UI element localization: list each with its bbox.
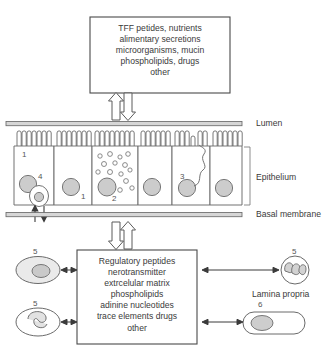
basal-membrane-band bbox=[6, 213, 242, 217]
lumen-exchange-arrow-up bbox=[109, 93, 124, 121]
lamina-propria-mediators-box-text: Regulatory peptides nerotransmitter extr… bbox=[77, 256, 197, 334]
nucleus-enterocyte-6 bbox=[215, 179, 232, 196]
lumen-boundary-band bbox=[6, 122, 242, 126]
microvilli-brush-border bbox=[17, 131, 242, 146]
spindle-cell-right bbox=[243, 312, 305, 334]
connector-arrow-top-right bbox=[202, 267, 279, 272]
bottom-box-line-4: phospholipids bbox=[77, 289, 197, 300]
bottom-box-line-3: extrcelular matrix bbox=[77, 278, 197, 289]
label-basal-membrane: Basal membrane bbox=[256, 209, 321, 219]
cell-number-enterocyte-second: 1 bbox=[81, 192, 85, 201]
connector-arrow-bottom-left bbox=[61, 319, 77, 324]
lumen-exchange-arrow-down bbox=[121, 93, 136, 121]
cell-number-tuft-cell: 3 bbox=[180, 172, 184, 181]
basolateral-exchange-arrow-up bbox=[121, 222, 136, 250]
cell-number-enterocyte-left: 1 bbox=[22, 150, 26, 159]
cell-number-immune-cell-top-left: 5 bbox=[33, 247, 37, 256]
bottom-box-line-5: adinine nucleotides bbox=[77, 300, 197, 311]
connector-arrow-top-left bbox=[61, 267, 77, 272]
cell-number-basal-cell: 4 bbox=[38, 172, 42, 181]
basolateral-exchange-arrow-down bbox=[109, 222, 124, 250]
bottom-box-line-7: other bbox=[77, 323, 197, 334]
top-box-line-1: TFF petides, nutrients bbox=[90, 23, 230, 34]
top-box-line-5: other bbox=[90, 67, 230, 78]
cell-number-spindle-cell-right: 6 bbox=[258, 300, 262, 309]
granulocyte-right bbox=[281, 256, 309, 284]
diagram-canvas: TFF petides, nutrients alimentary secret… bbox=[0, 0, 332, 354]
cell-number-immune-cell-bottom-left: 5 bbox=[33, 299, 37, 308]
top-box-line-4: phospholipids, drugs bbox=[90, 56, 230, 67]
label-epithelium: Epithelium bbox=[256, 172, 296, 182]
top-box-line-3: microorganisms, mucin bbox=[90, 45, 230, 56]
nucleus-enterocyte-2 bbox=[62, 178, 79, 195]
immune-cell-bottom-left bbox=[16, 308, 60, 336]
cell-number-goblet-cell: 2 bbox=[112, 194, 116, 203]
bottom-box-line-2: nerotransmitter bbox=[77, 267, 197, 278]
cell-number-granulocyte-right: 5 bbox=[292, 247, 296, 256]
top-box-line-2: alimentary secretions bbox=[90, 34, 230, 45]
immune-cell-top-left bbox=[16, 257, 60, 284]
label-lamina-propria: Lamina propria bbox=[252, 289, 309, 299]
basal-cell-4 bbox=[30, 186, 49, 207]
luminal-contents-box-text: TFF petides, nutrients alimentary secret… bbox=[90, 23, 230, 78]
label-leader-lines bbox=[244, 147, 250, 205]
nucleus-tuft-cell bbox=[178, 179, 195, 196]
bottom-box-line-1: Regulatory peptides bbox=[77, 256, 197, 267]
connector-arrow-bottom-right bbox=[202, 319, 243, 324]
label-lumen: Lumen bbox=[256, 118, 282, 128]
bottom-box-line-6: trace elements drugs bbox=[77, 311, 197, 322]
nucleus-enterocyte-4 bbox=[143, 178, 160, 195]
